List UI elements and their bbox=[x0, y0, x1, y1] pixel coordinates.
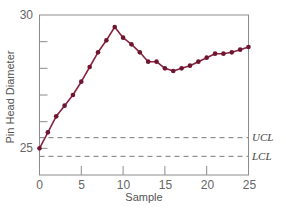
x-tick-label-5: 5 bbox=[78, 178, 85, 192]
data-point bbox=[87, 65, 92, 70]
x-tick-label-20: 20 bbox=[201, 178, 215, 192]
data-point bbox=[37, 146, 42, 151]
lcl-label: LCL bbox=[251, 150, 272, 162]
y-tick-label-30: 30 bbox=[20, 8, 34, 22]
data-point bbox=[163, 66, 168, 71]
data-point-markers bbox=[37, 25, 251, 151]
data-point bbox=[154, 59, 159, 64]
data-point bbox=[146, 59, 151, 64]
y-tick-label-25: 25 bbox=[20, 141, 34, 155]
data-point bbox=[54, 114, 59, 119]
data-series-line bbox=[40, 27, 249, 148]
data-point bbox=[104, 38, 109, 43]
data-point bbox=[138, 50, 143, 55]
data-point bbox=[62, 103, 67, 108]
data-point bbox=[121, 35, 126, 40]
data-point bbox=[71, 93, 76, 98]
data-point bbox=[196, 59, 201, 64]
data-point bbox=[238, 47, 243, 52]
data-point bbox=[179, 66, 184, 71]
data-point bbox=[188, 63, 193, 68]
data-point bbox=[79, 79, 84, 84]
data-point bbox=[171, 69, 176, 74]
data-point bbox=[229, 50, 234, 55]
data-point bbox=[129, 42, 134, 47]
ucl-label: UCL bbox=[252, 131, 273, 143]
x-axis-title: Sample bbox=[125, 191, 162, 203]
data-point bbox=[246, 45, 251, 50]
y-axis-title: Pin Head Diameter bbox=[4, 50, 16, 143]
data-point bbox=[96, 50, 101, 55]
control-limit-lines bbox=[40, 138, 249, 157]
data-point bbox=[204, 55, 209, 60]
x-tick-label-15: 15 bbox=[159, 178, 173, 192]
data-point bbox=[46, 130, 51, 135]
data-point bbox=[112, 25, 117, 30]
x-axis-ticks bbox=[81, 166, 206, 175]
x-tick-label-0: 0 bbox=[36, 178, 43, 192]
control-chart: 30 25 0 5 10 15 20 25 Sample Pin Head Di… bbox=[0, 0, 286, 212]
x-tick-label-10: 10 bbox=[117, 178, 131, 192]
data-point bbox=[213, 51, 218, 56]
x-tick-label-25: 25 bbox=[243, 178, 257, 192]
data-point bbox=[221, 51, 226, 56]
